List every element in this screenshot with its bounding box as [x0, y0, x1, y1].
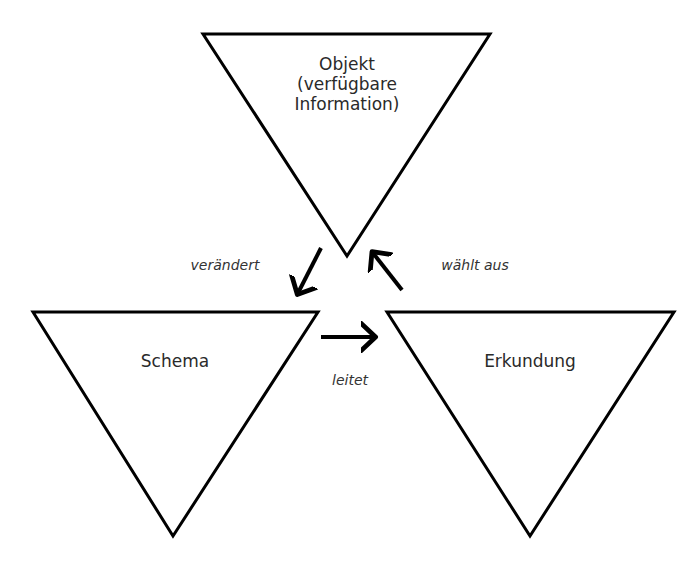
edge-label-leitet: leitet: [320, 372, 380, 388]
erkundung-triangle: [387, 312, 674, 536]
schema-label: Schema: [115, 351, 235, 371]
schema-triangle: [33, 312, 318, 536]
erkundung-label: Erkundung: [470, 351, 590, 371]
objekt-label: Objekt (verfügbare Information): [287, 54, 407, 114]
arrow-waehlt-aus: [373, 253, 402, 290]
edge-label-veraendert: verändert: [180, 257, 270, 273]
edge-label-waehlt-aus: wählt aus: [430, 257, 520, 273]
objekt-label-line-1: Objekt: [287, 54, 407, 74]
objekt-label-line-2: (verfügbare: [287, 74, 407, 94]
arrow-veraendert: [298, 248, 321, 293]
objekt-label-line-3: Information): [287, 94, 407, 114]
